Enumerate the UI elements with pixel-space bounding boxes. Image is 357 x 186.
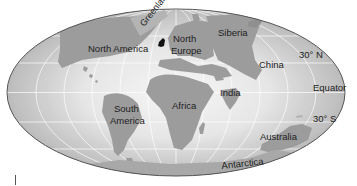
label-north-europe-line1: North (173, 34, 196, 44)
label-china: China (259, 60, 284, 70)
label-siberia: Siberia (218, 28, 248, 38)
label-north-europe-line2: Europe (171, 46, 202, 56)
label-north-america: North America (88, 44, 148, 54)
label-30s: 30° S (313, 114, 336, 124)
label-india: India (220, 88, 241, 98)
world-map (0, 0, 357, 186)
label-equator: Equator (313, 83, 346, 93)
label-south-america-line2: America (110, 116, 145, 126)
label-africa: Africa (172, 101, 196, 111)
label-australia: Australia (260, 132, 297, 142)
label-south-america-line1: South (114, 104, 139, 114)
text-cursor (15, 175, 16, 185)
label-30n: 30° N (299, 50, 323, 60)
